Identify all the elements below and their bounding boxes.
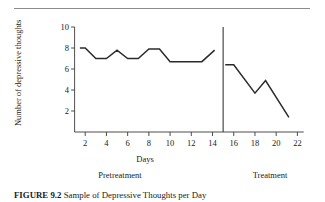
figure-container: 246810246810121416182022 Number of depre…: [0, 0, 325, 202]
x-axis: [75, 132, 304, 136]
phase-label-pretreatment: Pretreatment: [72, 170, 168, 180]
x-tick-label: 22: [293, 138, 302, 148]
x-tick-label: 14: [208, 138, 217, 148]
y-tick-label: 2: [65, 106, 69, 116]
y-axis-title: Number of depressive thoughts: [14, 18, 24, 128]
y-tick-label: 4: [65, 85, 70, 95]
x-tick-label: 18: [251, 138, 260, 148]
data-series: [80, 48, 289, 117]
x-tick-label: 4: [104, 138, 109, 148]
x-tick-label: 10: [166, 138, 175, 148]
series-line-pretreatment: [80, 48, 215, 62]
x-tick-label: 12: [187, 138, 196, 148]
tick-labels: 246810246810121416182022: [61, 22, 302, 148]
x-tick-label: 8: [147, 138, 151, 148]
figure-caption: FIGURE 9.2 Sample of Depressive Thoughts…: [14, 191, 314, 201]
figure-caption-label: FIGURE 9.2: [14, 191, 61, 200]
y-axis: [71, 27, 75, 132]
y-tick-label: 10: [61, 22, 70, 32]
x-tick-label: 2: [83, 138, 87, 148]
x-tick-label: 16: [229, 138, 238, 148]
series-line-treatment: [225, 65, 289, 118]
x-axis-title: Days: [0, 154, 290, 164]
x-tick-label: 20: [272, 138, 281, 148]
phase-label-treatment: Treatment: [222, 170, 318, 180]
y-tick-label: 8: [65, 43, 69, 53]
x-tick-label: 6: [126, 138, 130, 148]
figure-caption-body: Sample of Depressive Thoughts per Day: [64, 191, 207, 200]
y-tick-label: 6: [65, 64, 69, 74]
